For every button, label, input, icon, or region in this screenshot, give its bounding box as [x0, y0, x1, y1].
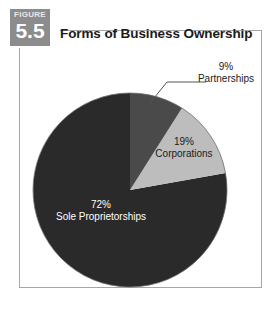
pie-label-sole-proprietorships-name: Sole Proprietorships: [40, 211, 162, 223]
pie-label-corporations-value: 19%: [140, 136, 228, 148]
pie-label-sole-proprietorships: 72% Sole Proprietorships: [40, 199, 162, 223]
pie-label-partnerships: 9% Partnerships: [178, 61, 274, 85]
pie-label-corporations: 19% Corporations: [140, 136, 228, 160]
pie-label-sole-proprietorships-value: 72%: [40, 199, 162, 211]
pie-chart: 9% Partnerships 19% Corporations 72% Sol…: [0, 0, 279, 309]
figure-container: FIGURE 5.5 Forms of Business Ownership 9…: [0, 0, 279, 309]
pie-label-partnerships-name: Partnerships: [178, 73, 274, 85]
pie-label-partnerships-value: 9%: [178, 61, 274, 73]
pie-label-corporations-name: Corporations: [140, 148, 228, 160]
